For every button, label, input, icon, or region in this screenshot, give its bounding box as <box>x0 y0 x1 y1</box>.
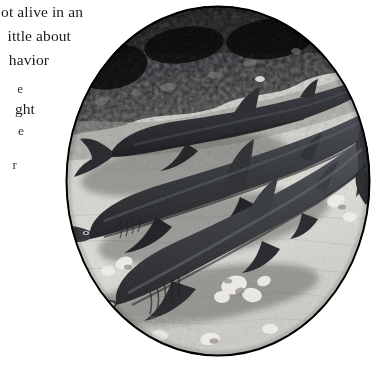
text-line: e <box>17 79 23 99</box>
text-line: ittle about <box>7 26 71 46</box>
text-line: ght <box>15 99 35 119</box>
text-line: e <box>18 121 24 141</box>
text-line: ot alive in an <box>1 2 83 22</box>
page-canvas: ot alive in an ittle about havior e ght … <box>0 0 381 382</box>
body-text-column: ot alive in an ittle about havior e ght … <box>0 0 120 190</box>
text-line: havior <box>9 50 49 70</box>
text-line: r <box>13 155 17 175</box>
